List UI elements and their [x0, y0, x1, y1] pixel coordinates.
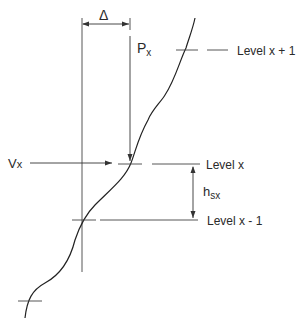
level-x-minus-1-label: Level x - 1 — [207, 214, 263, 228]
level-x-plus-1-label: Level x + 1 — [237, 44, 296, 58]
level-x-label: Level x — [206, 158, 244, 172]
px-label: Px — [137, 40, 151, 58]
vx-label: Vx — [8, 156, 23, 171]
delta-label: Δ — [99, 7, 108, 23]
drift-diagram: Δ Px Vx Level x + 1 Level x hsx Level x … — [0, 0, 304, 322]
deformed-column-curve — [25, 18, 195, 318]
hsx-label: hsx — [203, 184, 220, 201]
